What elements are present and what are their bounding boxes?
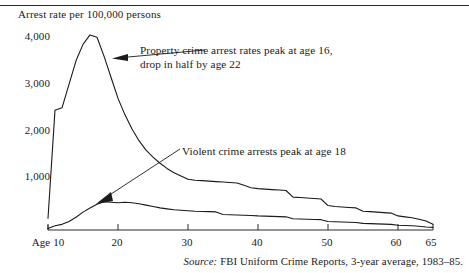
plot-area xyxy=(0,0,469,273)
source-note: Source: FBI Uniform Crime Reports, 3-yea… xyxy=(0,255,463,267)
source-label: Source: xyxy=(183,255,217,267)
axes-group xyxy=(48,224,433,230)
annotation-leader-property xyxy=(112,50,205,61)
source-text: FBI Uniform Crime Reports, 3-year averag… xyxy=(220,255,463,267)
series-line-property-crime xyxy=(48,35,433,224)
series-line-violent-crime xyxy=(48,202,433,229)
chart-figure: Arrest rate per 100,000 persons 1,000 2,… xyxy=(0,0,469,273)
annotation-leader-violent xyxy=(96,149,180,204)
x-axis-ticks xyxy=(48,224,433,230)
